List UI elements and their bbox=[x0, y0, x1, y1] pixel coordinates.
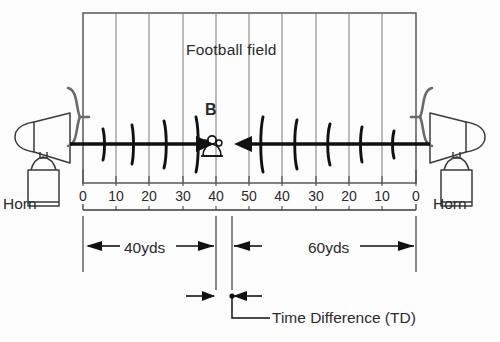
measurement-dot-icon bbox=[229, 293, 234, 298]
right-distance-label: 60yds bbox=[308, 240, 349, 256]
arrowhead-right bbox=[202, 291, 215, 301]
right-horn-label: Horn bbox=[433, 196, 467, 212]
yard-number: 40 bbox=[204, 188, 228, 204]
football-field-diagram: Football field B Horn Horn 40yds 60yds T… bbox=[0, 0, 500, 342]
yard-scale-baseline bbox=[83, 204, 416, 210]
yard-number: 0 bbox=[71, 188, 95, 204]
yard-number: 0 bbox=[404, 188, 428, 204]
page-title: Football field bbox=[186, 42, 277, 58]
observer-marker-label: B bbox=[205, 102, 217, 118]
time-difference-leader bbox=[229, 293, 270, 318]
arrowhead-right bbox=[398, 241, 414, 251]
sound-bracket-icon-right bbox=[411, 88, 432, 146]
dimension-time-difference bbox=[186, 291, 262, 301]
yard-number: 20 bbox=[337, 188, 361, 204]
arrowhead-left bbox=[234, 241, 250, 251]
arrowhead-right bbox=[198, 241, 214, 251]
yard-number: 20 bbox=[137, 188, 161, 204]
left-horn-label: Horn bbox=[3, 196, 37, 212]
right-sound-propagation-arrow bbox=[234, 117, 430, 172]
listener-person-icon bbox=[201, 136, 223, 156]
arrowhead-left bbox=[86, 241, 102, 251]
yard-gridlines bbox=[116, 13, 382, 183]
yard-number: 30 bbox=[304, 188, 328, 204]
air-horn-icon-left bbox=[15, 113, 70, 206]
yard-number: 10 bbox=[370, 188, 394, 204]
arrowhead-left bbox=[234, 136, 252, 152]
yard-number: 50 bbox=[237, 188, 261, 204]
yard-number: 40 bbox=[270, 188, 294, 204]
sound-bracket-icon-left bbox=[68, 88, 89, 146]
air-horn-icon-right bbox=[430, 113, 485, 206]
yard-number: 10 bbox=[104, 188, 128, 204]
arrowhead-left bbox=[233, 291, 247, 301]
yard-number: 30 bbox=[171, 188, 195, 204]
left-distance-label: 40yds bbox=[124, 240, 165, 256]
left-sound-propagation-arrow bbox=[70, 117, 214, 172]
time-difference-label: Time Difference (TD) bbox=[272, 310, 416, 326]
